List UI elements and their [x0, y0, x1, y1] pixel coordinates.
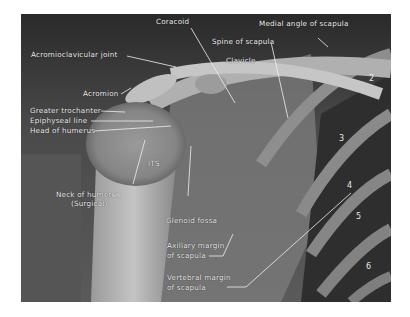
rib-number-6: 6: [366, 262, 371, 271]
label-clavicle: Clavicle: [226, 57, 256, 65]
label-acromioclavicular-joint: Acromioclavicular joint: [31, 51, 117, 59]
label-coracoid: Coracoid: [156, 18, 189, 26]
label-epiphyseal-line: Epiphyseal line: [30, 117, 87, 125]
label-greater-trochanter: Greater trochanter: [30, 107, 101, 115]
rib-number-4: 4: [347, 181, 352, 190]
label-vertebral-margin-1: Vertebral margin: [167, 274, 231, 282]
rib-number-5: 5: [356, 212, 361, 221]
label-its: ITS: [148, 160, 160, 168]
label-neck-surgical: (Surgical): [71, 200, 107, 208]
label-neck-of-humerus: Neck of humerus: [56, 191, 120, 199]
label-axillary-margin-1: Axillary margin: [167, 242, 224, 250]
rib-number-3: 3: [339, 134, 344, 143]
label-head-of-humerus: Head of humerus: [30, 127, 95, 135]
label-vertebral-margin-2: of scapula: [167, 284, 206, 292]
label-acromion: Acromion: [83, 90, 119, 98]
label-spine-of-scapula: Spine of scapula: [212, 38, 274, 46]
label-medial-angle: Medial angle of scapula: [259, 20, 349, 28]
rib-number-2: 2: [369, 74, 374, 83]
xray-image: Coracoid Medial angle of scapula Acromio…: [21, 14, 391, 302]
label-glenoid-fossa: Glenoid fossa: [166, 217, 217, 225]
label-axillary-margin-2: of scapula: [167, 252, 206, 260]
